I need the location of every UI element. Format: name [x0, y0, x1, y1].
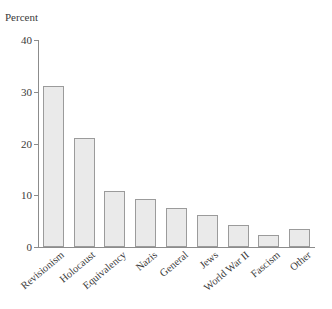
- y-tick-mark: [34, 195, 38, 196]
- x-axis-label: Revisionism: [19, 249, 66, 291]
- y-axis-line: [38, 40, 39, 247]
- bar: [166, 208, 187, 247]
- x-axis-label: General: [157, 249, 190, 279]
- y-tick-label: 0: [27, 241, 33, 253]
- x-axis-line: [38, 247, 315, 248]
- x-axis-label-text: Jews: [198, 249, 221, 271]
- bar: [289, 229, 310, 247]
- x-axis-label: Jews: [198, 249, 221, 271]
- x-axis-label-text: Fascism: [248, 249, 281, 280]
- y-tick-label: 30: [21, 86, 32, 98]
- bar: [135, 199, 156, 247]
- plot-area: 010203040 RevisionismHolocaustEquivalenc…: [38, 40, 315, 247]
- x-axis-label: Fascism: [248, 249, 281, 280]
- x-axis-label: Nazis: [133, 249, 158, 273]
- y-tick-mark: [34, 144, 38, 145]
- bar: [197, 215, 218, 247]
- y-axis-title: Percent: [5, 11, 38, 23]
- x-axis-label-text: Other: [287, 249, 312, 273]
- y-tick-mark: [34, 247, 38, 248]
- bar: [74, 138, 95, 247]
- y-tick-mark: [34, 40, 38, 41]
- x-axis-label-text: Nazis: [133, 249, 158, 273]
- x-axis-label-text: Revisionism: [19, 249, 66, 291]
- bar: [43, 86, 64, 247]
- bar: [228, 225, 249, 247]
- y-tick-label: 10: [21, 189, 32, 201]
- bar: [104, 191, 125, 247]
- bar: [258, 235, 279, 247]
- x-axis-label: Other: [287, 249, 312, 273]
- y-tick-label: 40: [21, 34, 32, 46]
- y-tick-mark: [34, 92, 38, 93]
- x-axis-label-text: General: [157, 249, 190, 279]
- bar-chart: Percent 010203040 RevisionismHolocaustEq…: [0, 0, 332, 309]
- y-tick-label: 20: [21, 138, 32, 150]
